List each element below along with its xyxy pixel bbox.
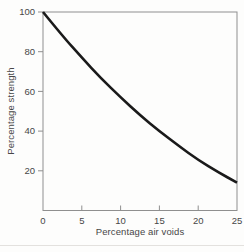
plot-border — [43, 12, 237, 211]
strength-curve — [43, 12, 237, 183]
x-tick-label: 10 — [115, 215, 126, 226]
y-axis-label: Percentage strength — [5, 67, 16, 154]
x-tick-label: 20 — [193, 215, 204, 226]
y-tick-label: 100 — [19, 6, 35, 17]
y-tick-label: 20 — [24, 165, 35, 176]
y-tick-label: 60 — [24, 86, 35, 97]
x-axis-label: Percentage air voids — [96, 226, 185, 237]
scan-edge-line — [0, 245, 244, 246]
chart-canvas: 051015202520406080100 — [0, 0, 244, 252]
x-tick-label: 15 — [154, 215, 165, 226]
x-tick-label: 25 — [232, 215, 243, 226]
x-tick-label: 5 — [79, 215, 84, 226]
x-tick-label: 0 — [40, 215, 45, 226]
y-tick-label: 80 — [24, 46, 35, 57]
strength-air-voids-figure: 051015202520406080100 Percentage air voi… — [0, 0, 244, 252]
y-tick-label: 40 — [24, 125, 35, 136]
